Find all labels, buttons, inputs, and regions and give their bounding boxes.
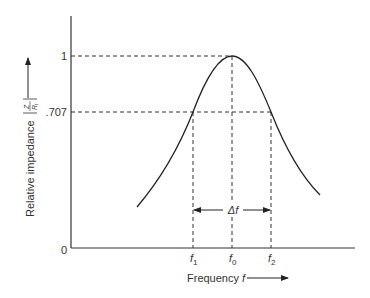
x-tick-f0: f0 [229,252,237,267]
delta-f-label: Δf [227,204,239,216]
y-tick-707: .707 [46,106,67,118]
resonance-diagram: Δf 1 .707 0 f1 f0 f2 Frequency f Relativ… [0,0,370,298]
guide-lines [71,56,272,248]
svg-text:Ri: Ri [31,103,39,110]
x-axis-label: Frequency f [187,272,246,284]
y-tick-0: 0 [61,244,67,256]
y-tick-1: 1 [61,50,67,62]
x-tick-f2: f2 [268,252,276,267]
x-tick-f1: f1 [190,252,198,267]
svg-text:Z: Z [23,104,30,110]
y-axis-label: Relative impedance Z Ri [23,99,39,217]
resonance-curve [137,56,320,207]
svg-text:Relative impedance: Relative impedance [24,120,36,217]
